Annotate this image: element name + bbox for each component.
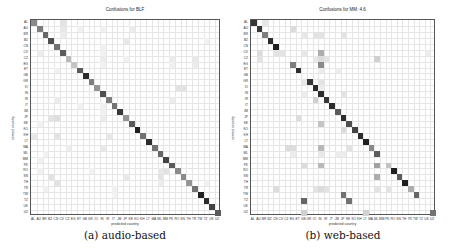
- matrix-cell: [324, 56, 330, 62]
- grid-line: [307, 20, 308, 214]
- y-tick-label: TZ: [14, 198, 28, 202]
- grid-line: [31, 163, 219, 164]
- matrix-cell: [100, 62, 106, 68]
- grid-line: [251, 198, 434, 199]
- grid-line: [152, 20, 153, 214]
- grid-line: [31, 127, 219, 128]
- matrix-cell: [374, 163, 380, 169]
- y-tick-label: IO: [14, 85, 28, 89]
- grid-line: [408, 20, 409, 214]
- y-tick-label: BR: [14, 32, 28, 36]
- grid-line: [251, 133, 434, 134]
- grid-line: [31, 198, 219, 199]
- figure-caption: (a) audio-based: [50, 229, 200, 241]
- y-tick-label: AL: [14, 20, 28, 24]
- grid-line: [374, 20, 375, 214]
- y-tick-label: AU: [234, 26, 248, 30]
- y-tick-label: TW: [234, 192, 248, 196]
- matrix-cell: [37, 121, 43, 127]
- matrix-cell: [301, 91, 307, 97]
- grid-line: [251, 68, 434, 69]
- y-tick-label: IR: [14, 97, 28, 101]
- matrix-cell: [31, 133, 37, 139]
- matrix-cell: [374, 174, 380, 180]
- matrix-cell: [192, 62, 198, 68]
- y-tick-label: BZ: [234, 38, 248, 42]
- y-tick-label: LT: [14, 139, 28, 143]
- grid-line: [31, 157, 219, 158]
- matrix-cell: [54, 115, 60, 121]
- y-tick-label: TZ: [234, 198, 248, 202]
- y-tick-label: ML: [234, 151, 248, 155]
- y-tick-label: GB: [234, 73, 248, 77]
- matrix-cell: [414, 192, 420, 198]
- chart-title: Confusions for BLF: [30, 7, 220, 12]
- grid-line: [251, 97, 434, 98]
- matrix-cell: [112, 192, 118, 198]
- grid-line: [380, 20, 381, 214]
- matrix-cell: [386, 186, 392, 192]
- y-tick-label: AU: [14, 26, 28, 30]
- matrix-cell: [257, 56, 263, 62]
- y-tick-label: CV: [14, 50, 28, 54]
- y-tick-label: ET: [234, 67, 248, 71]
- matrix-cell: [279, 50, 285, 56]
- grid-line: [31, 139, 219, 140]
- grid-line: [31, 186, 219, 187]
- grid-line: [31, 109, 219, 110]
- matrix-cell: [204, 180, 210, 186]
- matrix-cell: [290, 26, 296, 32]
- y-tick-label: IO: [234, 85, 248, 89]
- matrix-cell: [318, 151, 324, 157]
- y-tick-label: TR: [14, 186, 28, 190]
- matrix-cell: [273, 186, 279, 192]
- grid-line: [106, 20, 107, 214]
- matrix-cell: [169, 97, 175, 103]
- matrix-cell: [77, 26, 83, 32]
- matrix-cell: [374, 56, 380, 62]
- matrix-cell: [37, 168, 43, 174]
- matrix-cell: [430, 210, 436, 216]
- y-tick-label: AL: [234, 20, 248, 24]
- matrix-cell: [374, 151, 380, 157]
- grid-line: [83, 20, 84, 214]
- grid-line: [251, 73, 434, 74]
- grid-line: [285, 20, 286, 214]
- matrix-cell: [169, 62, 175, 68]
- y-tick-label: SN: [234, 174, 248, 178]
- matrix-cell: [318, 68, 324, 74]
- grid-line: [386, 20, 387, 214]
- grid-line: [31, 210, 219, 211]
- y-tick-label: MM: [14, 157, 28, 161]
- y-tick-label: CZ: [14, 56, 28, 60]
- grid-line: [146, 20, 147, 214]
- matrix-cell: [204, 38, 210, 44]
- matrix-cell: [324, 186, 330, 192]
- y-tick-label: TR: [234, 186, 248, 190]
- matrix-cell: [341, 32, 347, 38]
- y-tick-label: KE: [234, 121, 248, 125]
- y-tick-label: CV: [234, 50, 248, 54]
- matrix-cell: [346, 145, 352, 151]
- matrix-cell: [43, 151, 49, 157]
- matrix-cell: [129, 26, 135, 32]
- grid-line: [31, 192, 219, 193]
- y-tick-label: TW: [14, 192, 28, 196]
- y-tick-label: GR: [234, 79, 248, 83]
- matrix-cell: [106, 133, 112, 139]
- grid-line: [391, 20, 392, 214]
- matrix-cell: [318, 121, 324, 127]
- matrix-cell: [123, 174, 129, 180]
- matrix-cell: [296, 115, 302, 121]
- y-tick-label: LT: [234, 139, 248, 143]
- matrix-cell: [37, 50, 43, 56]
- grid-line: [251, 174, 434, 175]
- grid-line: [251, 139, 434, 140]
- y-tick-label: RO: [14, 168, 28, 172]
- grid-line: [94, 20, 95, 214]
- grid-line: [31, 145, 219, 146]
- matrix-cell: [100, 145, 106, 151]
- grid-line: [430, 20, 431, 214]
- confusion-matrix-plot: [30, 19, 220, 215]
- y-tick-label: MA: [14, 145, 28, 149]
